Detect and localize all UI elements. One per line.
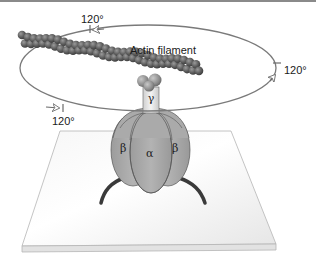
top-rule <box>0 0 316 2</box>
beta-right-label: β <box>172 142 178 155</box>
angle-label-right: 120° <box>284 64 307 76</box>
beta-left-label: β <box>120 142 126 155</box>
gamma-label: γ <box>148 92 155 105</box>
alpha-label: α <box>146 147 154 160</box>
actin-filament-label: Actin filament <box>130 44 196 56</box>
angle-label-bottom: 120° <box>52 115 75 127</box>
angle-label-top: 120° <box>81 13 104 25</box>
rotation-arrows <box>46 25 281 112</box>
atp-synthase-rotation-diagram: γ 120° 120° 120° Actin filament β α β <box>0 0 316 272</box>
